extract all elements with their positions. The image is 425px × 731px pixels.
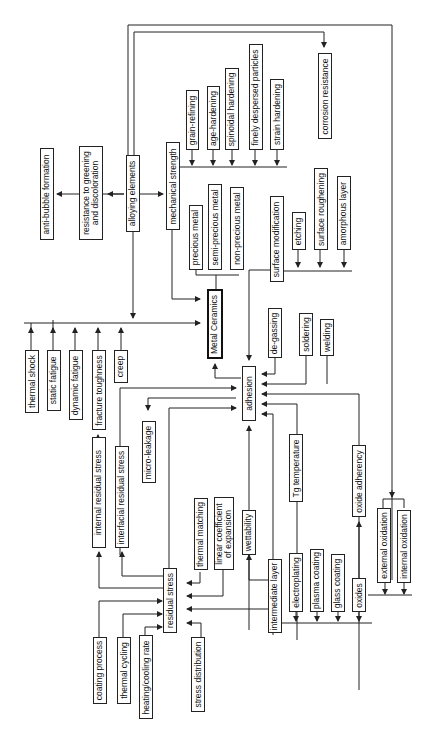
dynamic-fatigue-box: dynamic fatigue bbox=[69, 350, 83, 420]
linear-coefficient-box: linear coefficient of expansion bbox=[214, 497, 234, 570]
oxide-adherency-box: oxide adherency bbox=[352, 445, 366, 517]
intermediate-layer-box: intermediate layer bbox=[268, 559, 282, 633]
thermal-matching-box: thermal matching bbox=[194, 498, 208, 570]
fracture-toughness-label: fracture toughness bbox=[95, 355, 104, 425]
internal-residual-stress-label: internal residual stress bbox=[95, 450, 104, 535]
alloying-elements-label: alloying elements bbox=[129, 161, 138, 227]
external-oxidation-box: external oxidation bbox=[377, 508, 391, 583]
adhesion-box: adhesion bbox=[242, 366, 256, 421]
welding-box: welding bbox=[320, 319, 334, 356]
micro-leakage-box: micro-leakage bbox=[142, 421, 156, 483]
age-hardening-box: age-hardening bbox=[207, 86, 220, 150]
oxides-label: oxides bbox=[355, 583, 364, 608]
greening-resistance-label: resistance to greening and discoloration bbox=[82, 151, 100, 235]
de-gassing-label: de-gassing bbox=[271, 312, 280, 354]
oxides-box: oxides bbox=[352, 578, 366, 612]
surface-roughening-label: surface roughening bbox=[317, 173, 326, 246]
anti-bubble-formation-label: anti-bubble formation bbox=[43, 154, 52, 234]
amorphous-layer-box: amorphous layer bbox=[337, 176, 351, 250]
surface-roughening-box: surface roughening bbox=[314, 168, 328, 250]
finely-dispersed-particles-label: finely despersed particles bbox=[252, 49, 261, 145]
mechanical-strength-label: mechanical strength bbox=[169, 148, 178, 224]
surface-modification-label: surface modification bbox=[273, 201, 282, 277]
diagram-canvas: anti-bubble formation resistance to gree… bbox=[0, 0, 425, 731]
grain-refining-label: grain-refining bbox=[188, 95, 197, 145]
stress-distribution-box: stress distribution bbox=[191, 637, 205, 712]
alloying-elements-box: alloying elements bbox=[126, 155, 140, 232]
stress-distribution-label: stress distribution bbox=[194, 641, 203, 707]
spinoidal-hardening-label: spinoidal hardening bbox=[228, 72, 237, 146]
tg-temperature-box: Tg temperature bbox=[289, 434, 303, 502]
greening-resistance-box: resistance to greening and discoloration bbox=[79, 146, 103, 240]
welding-label: welding bbox=[323, 323, 332, 352]
age-hardening-label: age-hardening bbox=[209, 91, 218, 146]
soldering-box: soldering bbox=[299, 313, 313, 356]
wettability-label: wettability bbox=[245, 514, 254, 551]
spinoidal-hardening-box: spinoidal hardening bbox=[225, 68, 239, 150]
oxide-adherency-label: oxide adherency bbox=[355, 450, 364, 512]
coating-process-box: coating process bbox=[93, 637, 107, 704]
thermal-cycling-box: thermal cycling bbox=[117, 637, 131, 704]
micro-leakage-label: micro-leakage bbox=[145, 425, 154, 478]
external-oxidation-label: external oxidation bbox=[380, 512, 389, 579]
interfacial-residual-stress-box: interfacial residual stress bbox=[115, 446, 129, 548]
de-gassing-box: de-gassing bbox=[268, 308, 282, 358]
thermal-shock-box: thermal shock bbox=[25, 350, 39, 413]
surface-modification-box: surface modification bbox=[270, 196, 284, 282]
wettability-box: wettability bbox=[242, 510, 256, 555]
static-fatigue-label: static fatigue bbox=[50, 357, 59, 405]
internal-oxidation-label: internal oxidation bbox=[400, 514, 409, 578]
intermediate-layer-label: intermediate layer bbox=[271, 562, 280, 630]
electroplating-label: electroplating bbox=[292, 557, 301, 608]
coating-process-label: coating process bbox=[96, 641, 105, 701]
etching-box: etching bbox=[292, 212, 306, 250]
etching-label: etching bbox=[295, 217, 304, 244]
plasma-coating-box: plasma coating bbox=[310, 549, 324, 612]
static-fatigue-box: static fatigue bbox=[47, 350, 61, 411]
adhesion-label: adhesion bbox=[245, 376, 254, 411]
creep-box: creep bbox=[114, 350, 128, 383]
semi-precious-metal-label: semi-precious metal bbox=[211, 189, 220, 265]
plasma-coating-label: plasma coating bbox=[313, 552, 322, 609]
residual-stress-label: residual stress bbox=[166, 573, 175, 628]
amorphous-layer-label: amorphous layer bbox=[340, 181, 349, 244]
fracture-toughness-box: fracture toughness bbox=[92, 350, 106, 430]
linear-coefficient-label: linear coefficient of expansion bbox=[215, 503, 233, 564]
residual-stress-box: residual stress bbox=[163, 568, 177, 633]
heating-cooling-rate-box: heating/cooling rate bbox=[139, 635, 153, 719]
glass-coating-box: glass coating bbox=[331, 554, 345, 612]
metal-ceramics-box: Metal Ceramics bbox=[207, 289, 223, 359]
soldering-label: soldering bbox=[302, 317, 311, 352]
precious-metal-label: precious metal bbox=[192, 210, 201, 265]
anti-bubble-formation-box: anti-bubble formation bbox=[40, 148, 54, 240]
internal-oxidation-box: internal oxidation bbox=[397, 510, 411, 583]
semi-precious-metal-box: semi-precious metal bbox=[208, 184, 222, 270]
strain-hardening-label: strain hardening bbox=[273, 84, 282, 145]
thermal-matching-label: thermal matching bbox=[197, 501, 206, 566]
corrosion-resistance-label: corrosion resistance bbox=[321, 58, 330, 134]
tg-temperature-label: Tg temperature bbox=[292, 439, 301, 497]
strain-hardening-box: strain hardening bbox=[270, 79, 284, 150]
creep-label: creep bbox=[117, 356, 126, 377]
heating-cooling-rate-label: heating/cooling rate bbox=[142, 640, 151, 714]
grain-refining-box: grain-refining bbox=[186, 90, 199, 150]
mechanical-strength-box: mechanical strength bbox=[166, 142, 180, 230]
non-precious-metal-box: non-precious metal bbox=[230, 187, 244, 270]
electroplating-box: electroplating bbox=[289, 553, 303, 612]
corrosion-resistance-box: corrosion resistance bbox=[318, 53, 332, 139]
thermal-shock-label: thermal shock bbox=[28, 355, 37, 408]
internal-residual-stress-box: internal residual stress bbox=[92, 437, 106, 548]
interfacial-residual-stress-label: interfacial residual stress bbox=[118, 450, 127, 544]
glass-coating-label: glass coating bbox=[334, 558, 343, 608]
metal-ceramics-label: Metal Ceramics bbox=[211, 294, 220, 353]
non-precious-metal-label: non-precious metal bbox=[233, 192, 242, 264]
precious-metal-box: precious metal bbox=[189, 205, 203, 270]
dynamic-fatigue-label: dynamic fatigue bbox=[72, 355, 81, 415]
thermal-cycling-label: thermal cycling bbox=[120, 642, 129, 699]
finely-dispersed-particles-box: finely despersed particles bbox=[249, 44, 263, 150]
